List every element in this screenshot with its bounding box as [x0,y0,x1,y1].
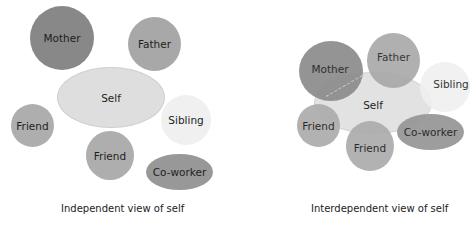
friend-left-label: Friend [16,120,48,132]
coworker-ellipse: Co-worker [146,154,213,190]
father-label: Father [138,38,171,50]
friend-bottom-label: Friend [354,142,386,154]
coworker-ellipse: Co-worker [397,114,464,150]
friend-left-label: Friend [302,120,334,132]
friend-bottom-label: Friend [94,150,126,162]
self-label: Self [101,92,121,104]
father-circle: Father [367,33,420,88]
coworker-label: Co-worker [404,126,458,138]
sibling-circle: Sibling [161,95,211,145]
mother-circle: Mother [30,6,94,70]
sibling-circle: Sibling [420,62,470,112]
friend-bottom-circle: Friend [346,121,394,171]
friend-bottom-circle: Friend [86,131,134,180]
father-label: Father [377,51,410,63]
mother-label: Mother [43,32,80,44]
self-ellipse: Self [57,67,165,128]
independent-view-diagram: Mother Father Self Sibling Friend Friend… [0,0,240,234]
self-label: Self [363,99,383,111]
coworker-label: Co-worker [153,166,207,178]
mother-label: Mother [311,63,348,75]
father-circle: Father [128,17,181,71]
sibling-label: Sibling [433,78,468,90]
friend-left-circle: Friend [297,104,340,147]
sibling-label: Sibling [168,114,203,126]
independent-caption: Independent view of self [61,203,184,214]
interdependent-view-diagram: Self Sibling Mother Father Friend Friend… [240,0,475,234]
friend-left-circle: Friend [11,104,54,147]
interdependent-caption: Interdependent view of self [311,203,448,214]
